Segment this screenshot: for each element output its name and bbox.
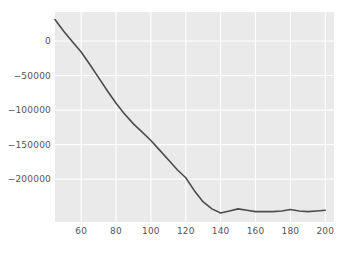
y-axis-tick-label: −100000 (8, 105, 51, 115)
x-axis-tick-label: 200 (316, 226, 334, 236)
x-axis-tick-label: 100 (142, 226, 160, 236)
plot-area (55, 12, 334, 222)
y-axis-tick-label: 0 (45, 36, 51, 46)
series-line (55, 20, 325, 213)
y-axis-tick-label: −150000 (8, 140, 51, 150)
y-axis-tick-label: −50000 (14, 71, 51, 81)
x-axis-tick-label: 180 (282, 226, 300, 236)
x-axis-tick-labels: 6080100120140160180200 (0, 226, 344, 242)
series-curve (55, 12, 334, 222)
y-axis-tick-label: −200000 (8, 174, 51, 184)
x-axis-tick-label: 80 (110, 226, 122, 236)
x-axis-tick-label: 140 (212, 226, 230, 236)
y-axis-tick-labels: 0−50000−100000−150000−200000 (0, 0, 51, 258)
x-axis-tick-label: 60 (75, 226, 87, 236)
chart-figure: 0−50000−100000−150000−200000 60801001201… (0, 0, 344, 258)
x-axis-tick-label: 160 (247, 226, 265, 236)
x-axis-tick-label: 120 (177, 226, 195, 236)
